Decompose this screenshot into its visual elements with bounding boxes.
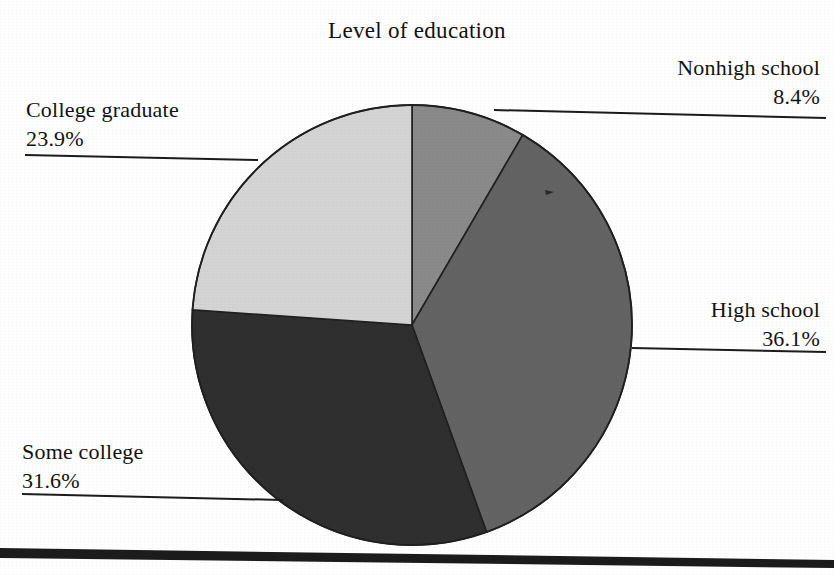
callout-value-high-school: 36.1% [711,325,820,354]
leader-line-nonhigh-school [494,110,826,118]
callout-label-nonhigh-school: Nonhigh school 8.4% [677,54,820,111]
bottom-page-rule [0,548,834,568]
callout-value-nonhigh-school: 8.4% [677,83,820,112]
callout-name-college-graduate: College graduate [26,96,179,125]
callout-label-high-school: High school 36.1% [711,296,820,353]
callout-value-some-college: 31.6% [22,467,144,496]
callout-name-nonhigh-school: Nonhigh school [677,54,820,83]
chart-title: Level of education [0,18,834,44]
callout-label-some-college: Some college 31.6% [22,438,144,495]
callout-value-college-graduate: 23.9% [26,125,179,154]
leader-line-college-graduate [25,155,258,160]
callout-name-high-school: High school [711,296,820,325]
callout-label-college-graduate: College graduate 23.9% [26,96,179,153]
pie-chart-figure: Level of education Nonhigh school 8.4% H… [0,0,834,575]
pie-slice-college-graduate[interactable] [193,105,412,325]
callout-name-some-college: Some college [22,438,144,467]
